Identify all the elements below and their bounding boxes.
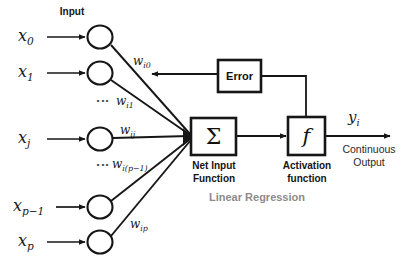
input-neuron-j	[88, 128, 113, 151]
weight-label-i0: wi0	[133, 55, 151, 70]
input-label-xj: xj	[18, 130, 30, 149]
input-neuron-1	[88, 62, 113, 85]
net-input-caption-line2: Function	[180, 174, 248, 184]
input-neuron-circles	[88, 26, 113, 254]
activation-caption-line1: Activation	[272, 161, 342, 171]
weight-line-ip	[111, 141, 190, 236]
activation-glyph: f	[288, 117, 325, 155]
output-label-yi: yi	[348, 110, 360, 128]
input-label-x0: x0	[18, 28, 34, 47]
neural-network-diagram: Input x0 x1 xj xp−1 xp ⋮ ⋮ wi0 wi1 wij w…	[0, 0, 402, 267]
weight-label-ij: wij	[120, 124, 135, 139]
error-label: Error	[218, 60, 261, 92]
ellipsis-lower: ⋮	[96, 158, 110, 172]
net-input-caption-line1: Net Input	[180, 161, 248, 171]
weight-label-ip-1: wi(p−1)	[112, 158, 148, 173]
ellipsis-upper: ⋮	[96, 94, 110, 108]
activation-caption-line2: function	[272, 174, 342, 184]
input-neuron-0	[88, 26, 113, 49]
input-neuron-p	[88, 231, 113, 254]
weight-label-i1: wi1	[116, 95, 134, 110]
input-label-xp: xp	[18, 233, 34, 252]
input-label-xp-1: xp−1	[13, 198, 44, 217]
input-label-x1: x1	[18, 64, 34, 83]
net-input-glyph: Σ	[191, 118, 236, 155]
weight-label-ip: wip	[130, 218, 148, 233]
input-arrows	[47, 37, 85, 242]
error-feedback-path	[261, 76, 306, 117]
input-heading: Input	[50, 7, 94, 17]
subtitle-linear-regression: Linear Regression	[192, 192, 322, 203]
output-caption-line1: Continuous	[336, 144, 402, 155]
input-neuron-p-1	[88, 196, 113, 219]
output-caption-line2: Output	[336, 157, 402, 168]
